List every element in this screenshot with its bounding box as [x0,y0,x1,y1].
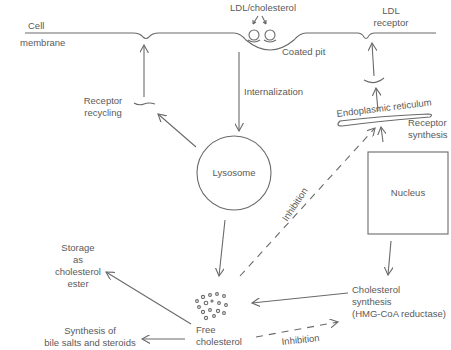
free-cholesterol-label-2: cholesterol [196,336,242,347]
receptor-to-membrane-arrow [372,43,374,76]
bile-label-1: Synthesis of [64,325,116,336]
storage-label-1: Storage [61,242,94,253]
storage-label-3: cholesterol [55,266,101,277]
free-cholesterol-dots [196,293,228,320]
endoplasmic-reticulum-label: Endoplasmic reticulum [336,96,432,119]
storage-label-4: ester [67,278,88,289]
free-chol-to-storage-arrow [106,272,191,324]
storage-label-2: as [73,254,83,265]
bile-label-2: bile salts and steroids [44,337,136,348]
ldl-receptor-label-2: receptor [374,17,409,28]
recycling-receptor-icon [134,103,155,105]
chol-synthesis-label-2: synthesis [352,296,392,307]
cell-membrane [25,33,436,50]
cell-membrane-label-2: membrane [20,37,65,48]
cell-membrane-label-1: Cell [28,20,44,31]
free-cholesterol-label-1: Free [196,324,216,335]
synthesis-to-free-chol-arrow [252,293,348,303]
internalization-label: Internalization [244,86,303,97]
new-receptor-icon [364,78,384,83]
receptor-synthesis-label-2: synthesis [408,129,448,140]
lysosome-to-recycling-arrow [158,114,196,147]
inhibition-er-arrow [240,128,375,276]
receptor-recycling-label-2: recycling [84,107,122,118]
receptor-synthesis-arrow [381,127,383,142]
lysosome-label: Lysosome [213,167,256,178]
lysosome-to-free-chol-arrow [219,220,225,276]
ldl-receptor-label-1: LDL [382,5,399,16]
chol-synthesis-label-3: (HMG-CoA reductase) [352,308,446,319]
ldl-pathway-diagram: Cell membrane LDL/cholesterol Coated pit… [0,0,451,350]
coated-pit-label: Coated pit [282,46,326,57]
ldl-particles [248,16,276,42]
inhibition-label-2: Inhibition [281,332,320,347]
nucleus-label: Nucleus [391,187,426,198]
ldl-cholesterol-label: LDL/cholesterol [230,2,296,13]
chol-synthesis-label-1: Cholesterol [352,284,400,295]
receptor-recycling-label-1: Receptor [84,95,123,106]
nucleus-to-synthesis-arrow [388,241,391,275]
receptor-synthesis-label-1: Receptor [408,117,447,128]
